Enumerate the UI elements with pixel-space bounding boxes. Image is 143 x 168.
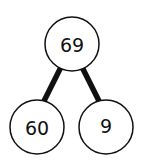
whole-label: 69: [60, 34, 84, 56]
part-node-right: 9: [79, 100, 133, 154]
part-left-label: 60: [25, 117, 49, 139]
connector-left: [44, 67, 61, 101]
number-bond-diagram: 69 60 9: [0, 0, 143, 168]
connector-right: [82, 67, 99, 101]
whole-node: 69: [45, 17, 99, 71]
part-right-label: 9: [100, 115, 112, 137]
part-node-left: 60: [10, 100, 64, 154]
